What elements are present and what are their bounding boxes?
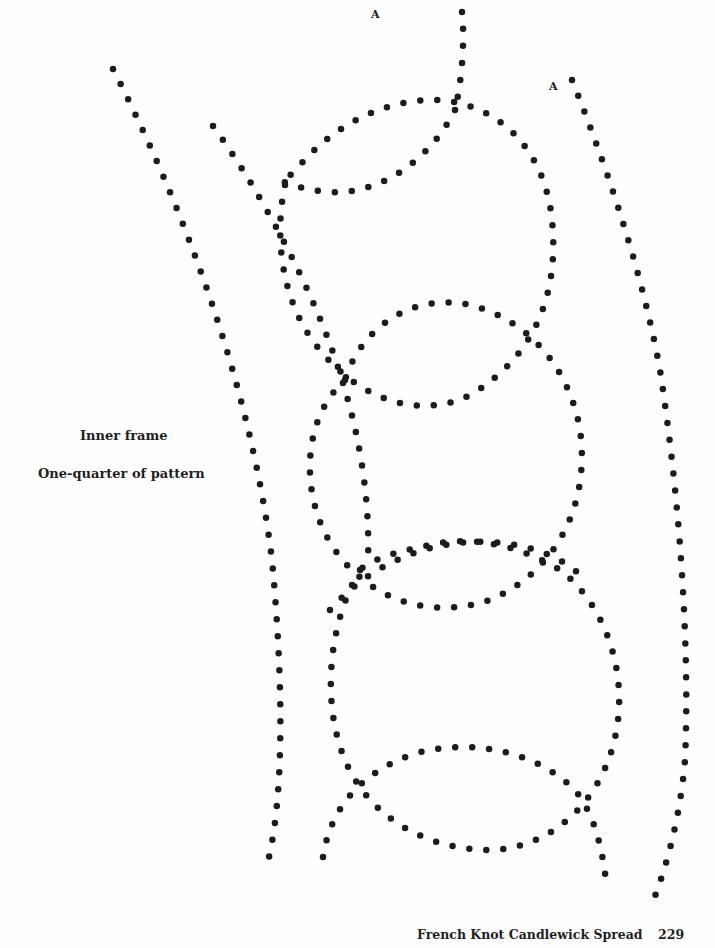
marker-a-left: A (371, 8, 380, 21)
bottom-lens-arc (323, 747, 607, 890)
top-circle (280, 100, 553, 406)
page-number: 229 (658, 927, 684, 942)
right-inner-frame-line (572, 80, 686, 896)
top-lens-lower-arc (280, 110, 455, 192)
caption-title: Inner frame (80, 428, 168, 443)
pattern-dot-lines (113, 12, 686, 896)
pattern-page: A A Inner frame One-quarter of pattern F… (0, 0, 715, 948)
inner-left-frame-line (213, 126, 368, 560)
vertical-stem-top (455, 12, 463, 110)
running-title: French Knot Candlewick Spread (417, 927, 643, 942)
outer-left-frame-line (113, 69, 280, 857)
caption-subtitle: One-quarter of pattern (38, 466, 205, 481)
marker-a-right: A (549, 80, 558, 93)
